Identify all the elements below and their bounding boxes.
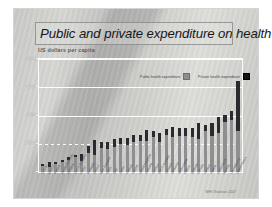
x-axis-label: Netherlands	[177, 172, 180, 198]
screenshot-frame: Public and private expenditure on health…	[0, 0, 270, 207]
legend-swatch-private-icon	[243, 73, 250, 80]
presentation-slide: Public and private expenditure on health…	[14, 9, 258, 198]
y-axis: 02000400060008000	[18, 58, 37, 171]
bar-segment-private	[93, 140, 96, 155]
bar-segment-private	[236, 81, 239, 131]
x-axis-label: Greece	[92, 172, 95, 198]
bar-segment-private	[191, 128, 194, 137]
legend-label-private: Private health expenditure	[198, 75, 240, 79]
bar-segment-private	[87, 146, 90, 154]
x-axis-label: United Kingdom	[138, 172, 141, 198]
x-axis-label: New Zealand	[99, 172, 102, 198]
bar-segment-private	[217, 117, 220, 133]
x-axis-label: Hungary	[66, 172, 69, 198]
bar-segment-private	[178, 128, 181, 136]
bar-segment-private	[204, 125, 207, 132]
x-axis-label: Italy	[112, 172, 115, 198]
x-axis-label: Slovak Republic	[60, 172, 63, 198]
chart-legend: Public health expenditure Private health…	[140, 73, 250, 80]
x-axis-label: Iceland	[203, 172, 206, 198]
x-axis-label: Korea	[79, 172, 82, 198]
bar-segment-private	[113, 139, 116, 147]
bar-segment-private	[126, 138, 129, 145]
x-axis-label: OECD average	[157, 172, 160, 198]
x-axis-label: Switzerland	[216, 172, 219, 198]
x-axis-label: Austria	[209, 172, 212, 198]
bar-segment-private	[158, 133, 161, 143]
x-axis-label: Ireland	[131, 172, 134, 198]
bar-segment-private	[230, 111, 233, 120]
y-axis-tick-label: 6000	[27, 84, 36, 89]
page-title: Public and private expenditure on health	[36, 26, 270, 41]
x-axis-labels: TurkeyMexicoPolandSlovak RepublicHungary…	[38, 172, 241, 198]
x-axis-label: Belgium	[190, 172, 193, 198]
bar-segment-private	[139, 135, 142, 142]
x-axis-label: Sweden	[151, 172, 154, 198]
y-axis-tick-label: 4000	[27, 112, 36, 117]
x-axis-label: Germany	[170, 172, 173, 198]
x-axis-label: Mexico	[47, 172, 50, 198]
slide-subtitle: US dollars per capita	[38, 47, 95, 53]
source-note: WHO Statistics 2007	[206, 190, 236, 194]
x-axis-label: Australia	[144, 172, 147, 198]
bar-segment-private	[223, 115, 226, 123]
legend-swatch-public-icon	[183, 73, 190, 80]
x-axis-label: Turkey	[40, 172, 43, 198]
x-axis-label: Japan	[118, 172, 121, 198]
x-axis-label: Finland	[125, 172, 128, 198]
bar-segment-private	[184, 128, 187, 136]
legend-label-public: Public health expenditure	[140, 75, 181, 79]
slide-title-box: Public and private expenditure on health	[35, 22, 233, 45]
y-axis-tick-label: 2000	[27, 140, 36, 145]
bar-segment-private	[106, 142, 109, 149]
x-axis-label: Denmark	[164, 172, 167, 198]
x-axis-label: United States	[235, 172, 238, 198]
bar-luxembourg	[230, 111, 233, 172]
x-axis-label: Spain	[105, 172, 108, 198]
legend-item-private: Private health expenditure	[198, 73, 249, 80]
bar-segment-private	[197, 123, 200, 139]
bar-segment-private	[171, 127, 174, 138]
x-axis-label: Canada	[196, 172, 199, 198]
bar-segment-private	[132, 135, 135, 143]
bar-segment-private	[145, 130, 148, 141]
y-axis-tick-label: 8000	[27, 56, 36, 61]
x-axis-label: Norway	[222, 172, 225, 198]
bar-segment-private	[210, 123, 213, 135]
x-axis-label: Portugal	[86, 172, 89, 198]
legend-item-public: Public health expenditure	[140, 73, 190, 80]
x-axis-label: Czech Republic	[73, 172, 76, 198]
x-axis-label: France	[183, 172, 186, 198]
x-axis-label: Poland	[53, 172, 56, 198]
x-axis-label: Luxembourg	[229, 172, 232, 198]
